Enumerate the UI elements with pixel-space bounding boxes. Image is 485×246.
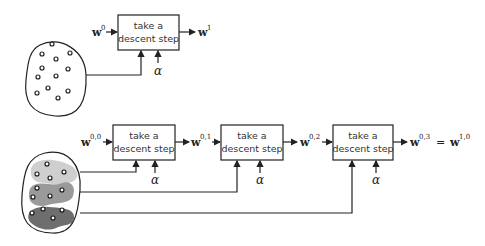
descent-step-box-2: w 0,1 take a descent step α <box>190 125 297 187</box>
dataset-points <box>35 42 72 100</box>
final-lhs-sup: 0,3 <box>419 133 430 141</box>
box-3-alpha: α <box>372 173 380 187</box>
box-3-label-line1: take a <box>348 130 377 141</box>
box-3-input-sup: 0,2 <box>309 133 320 141</box>
final-output: w 0,3 = w 1,0 <box>409 133 470 149</box>
box-1-label-line1: take a <box>129 130 158 141</box>
box-1-alpha: α <box>151 173 159 187</box>
top-diagram: take a descent step w 0 w 1 α <box>26 15 212 116</box>
box-1-label-line2: descent step <box>113 143 174 154</box>
descent-step-box-1: w 0,0 take a descent step α <box>80 125 189 187</box>
box-2-input-sup: 0,1 <box>200 133 211 141</box>
output-weight-sup: 1 <box>207 24 211 32</box>
input-weight-sup: 0 <box>101 24 105 32</box>
bottom-diagram: w 0,0 take a descent step α w 0,1 take a… <box>22 125 470 233</box>
box-3-label-line2: descent step <box>332 143 393 154</box>
minibatch-1-connector <box>80 161 136 172</box>
box-label-line1: take a <box>134 20 163 31</box>
box-2-label-line2: descent step <box>221 143 282 154</box>
descent-step-box-3: w 0,2 take a descent step α <box>299 125 407 187</box>
diagram-canvas: take a descent step w 0 w 1 α <box>0 0 485 246</box>
box-1-input-sup: 0,0 <box>90 133 101 141</box>
dataset-connector <box>86 51 141 75</box>
box-2-label-line1: take a <box>237 130 266 141</box>
minibatch-3-connector <box>80 161 352 213</box>
alpha-label: α <box>154 64 162 78</box>
final-rhs-sup: 1,0 <box>459 133 470 141</box>
final-equals: = <box>436 136 445 149</box>
box-2-alpha: α <box>256 173 264 187</box>
box-label-line2: descent step <box>118 33 179 44</box>
dataset-blob <box>26 42 86 116</box>
